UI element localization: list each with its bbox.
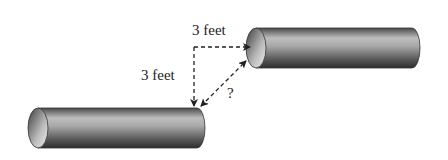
- unknown-distance-label: ?: [227, 86, 234, 101]
- lower-pipe: [28, 108, 205, 148]
- unknown-distance-arrow: [201, 61, 246, 106]
- vertical-distance-label: 3 feet: [141, 68, 175, 83]
- upper-pipe: [246, 28, 420, 68]
- horizontal-distance-label: 3 feet: [192, 23, 226, 38]
